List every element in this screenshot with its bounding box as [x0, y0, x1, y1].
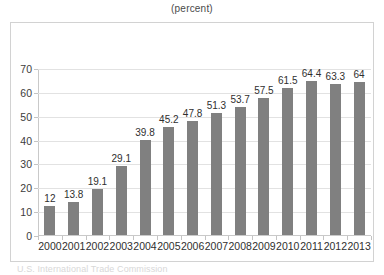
y-axis-tick [34, 164, 38, 165]
bar-value-label: 29.1 [112, 153, 131, 164]
bar-value-label: 47.8 [183, 108, 202, 119]
bar-value-label: 51.3 [207, 100, 226, 111]
x-axis-tick-label: 2010 [276, 240, 299, 252]
bar [92, 189, 103, 235]
bar [282, 88, 293, 235]
y-axis-tick-label: 50 [20, 111, 32, 123]
bar-value-label: 19.1 [88, 176, 107, 187]
bar-value-label: 53.7 [230, 94, 249, 105]
x-axis-tick-label: 2013 [347, 240, 370, 252]
y-axis-tick-label: 30 [20, 158, 32, 170]
y-axis-tick-label: 60 [20, 87, 32, 99]
bar [68, 202, 79, 235]
bar [330, 84, 341, 235]
chart-screenshot: (percent) 0102030405060701213.819.129.13… [0, 0, 384, 275]
bar-value-label: 13.8 [64, 189, 83, 200]
gridline [38, 141, 371, 142]
y-axis-tick [34, 117, 38, 118]
gridline [38, 93, 371, 94]
gridline [38, 164, 371, 165]
bar [140, 140, 151, 235]
bar-value-label: 12 [44, 193, 55, 204]
bar-value-label: 45.2 [159, 114, 178, 125]
source-note: U.S. International Trade Commission [17, 264, 168, 274]
x-axis-tick-label: 2012 [324, 240, 347, 252]
y-axis-tick-label: 10 [20, 206, 32, 218]
bar [116, 166, 127, 235]
x-axis-tick-label: 2004 [133, 240, 156, 252]
bar-value-label: 57.5 [254, 85, 273, 96]
gridline [38, 212, 371, 213]
bar [235, 107, 246, 235]
y-axis-tick-label: 40 [20, 135, 32, 147]
bar [163, 127, 174, 235]
bar [306, 81, 317, 235]
bar [187, 121, 198, 235]
y-axis-tick [34, 69, 38, 70]
x-axis-tick [371, 236, 372, 240]
y-axis-line [38, 69, 39, 236]
bar-value-label: 64 [354, 69, 365, 80]
x-axis-tick-label: 2008 [228, 240, 251, 252]
bar [258, 98, 269, 235]
x-axis-tick-label: 2011 [300, 240, 323, 252]
chart-title: (percent) [0, 3, 384, 14]
bar [211, 113, 222, 235]
bar [354, 82, 365, 235]
bar-value-label: 63.3 [326, 71, 345, 82]
x-axis-tick-label: 2002 [86, 240, 109, 252]
x-axis-tick-label: 2001 [62, 240, 85, 252]
y-axis-tick-label: 20 [20, 182, 32, 194]
x-axis-tick-label: 2005 [157, 240, 180, 252]
bar-value-label: 64.4 [302, 68, 321, 79]
y-axis-tick [34, 141, 38, 142]
x-axis-tick-label: 2006 [181, 240, 204, 252]
gridline [38, 117, 371, 118]
plot-area: 0102030405060701213.819.129.139.845.247.… [38, 69, 371, 236]
y-axis-tick-label: 70 [20, 63, 32, 75]
x-axis-tick-label: 2007 [205, 240, 228, 252]
y-axis-tick [34, 212, 38, 213]
gridline [38, 188, 371, 189]
x-axis-tick-label: 2009 [252, 240, 275, 252]
bar [44, 206, 55, 235]
x-axis-labels: 2000200120022003200420052006200720082009… [38, 240, 371, 256]
x-axis-tick-label: 2003 [110, 240, 133, 252]
x-axis-tick-label: 2000 [38, 240, 61, 252]
y-axis-tick [34, 188, 38, 189]
y-axis-tick [34, 93, 38, 94]
bar-value-label: 61.5 [278, 75, 297, 86]
y-axis-tick-label: 0 [26, 230, 32, 242]
bar-value-label: 39.8 [135, 127, 154, 138]
